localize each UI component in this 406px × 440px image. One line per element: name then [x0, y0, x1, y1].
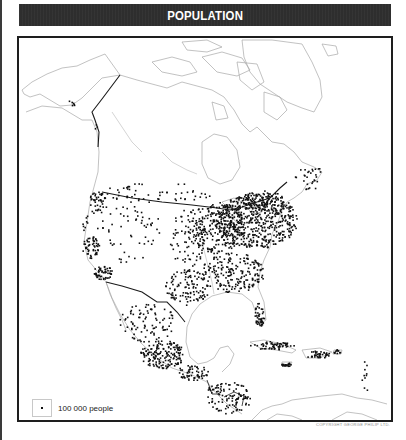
- map-title: POPULATION: [167, 8, 243, 23]
- population-dots: [69, 101, 369, 415]
- legend-symbol-box: [32, 399, 52, 417]
- population-map: [19, 38, 391, 420]
- map-frame: [17, 36, 393, 422]
- legend: 100 000 people: [32, 399, 113, 417]
- copyright-notice: COPYRIGHT GEORGE PHILIP LTD.: [316, 422, 390, 427]
- title-banner: POPULATION: [19, 4, 391, 26]
- legend-label: 100 000 people: [58, 404, 113, 413]
- population-dot-icon: [41, 407, 43, 409]
- page-edge-bar: [0, 0, 2, 440]
